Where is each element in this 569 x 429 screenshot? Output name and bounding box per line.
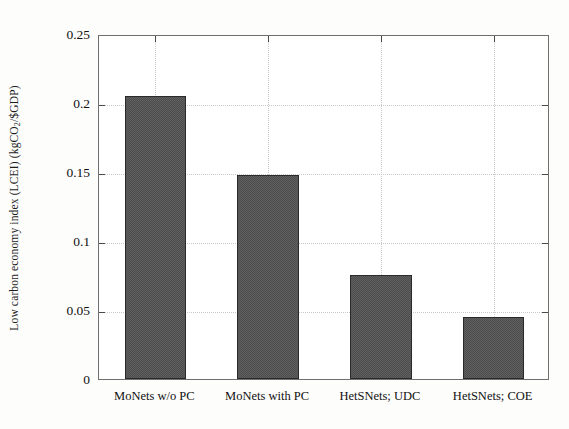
y-tick-mark-right [542,312,548,313]
y-axis-title: Low carbon economy index (LCEI) (kgCO2/$… [0,35,30,380]
y-axis-title-suffix: /$GDP) [8,85,20,122]
chart-figure: Low carbon economy index (LCEI) (kgCO2/$… [0,0,569,429]
x-tick-label: MoNets w/o PC [114,389,195,404]
bar [125,96,186,379]
bar [463,317,524,379]
x-tick-mark [381,36,382,42]
x-tick-label: HetSNets; COE [453,389,533,404]
bar [350,275,411,379]
y-tick-mark [99,105,105,106]
x-tick-label: MoNets with PC [225,389,309,404]
x-tick-label: HetSNets; UDC [339,389,420,404]
y-tick-label: 0 [30,372,90,388]
plot-area [98,35,549,380]
x-tick-mark [155,36,156,42]
y-tick-mark [99,312,105,313]
y-tick-mark [99,174,105,175]
y-tick-label: 0.2 [30,96,90,112]
y-tick-mark-right [542,243,548,244]
y-tick-label: 0.15 [30,165,90,181]
x-tick-mark [494,36,495,42]
y-tick-label: 0.1 [30,234,90,250]
y-tick-label: 0.25 [30,27,90,43]
y-tick-mark-right [542,105,548,106]
y-tick-mark [99,243,105,244]
y-tick-label: 0.05 [30,303,90,319]
y-axis-title-prefix: Low carbon economy index (LCEI) (kgCO [8,126,20,331]
bar [237,175,298,379]
x-tick-mark [268,36,269,42]
y-axis-title-subscript: 2 [13,122,22,126]
y-tick-mark-right [542,174,548,175]
